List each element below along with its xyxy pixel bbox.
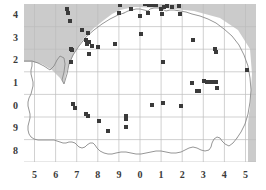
data-point-marker (154, 4, 158, 7)
data-point-marker (190, 81, 194, 85)
data-point-marker (106, 129, 110, 133)
x-tick-label: 5 (238, 170, 252, 180)
x-tick-label: 5 (28, 170, 42, 180)
data-point-marker (197, 89, 201, 93)
data-point-marker (160, 12, 164, 16)
data-point-marker (97, 119, 101, 123)
data-point-marker (177, 4, 181, 8)
data-point-marker (117, 11, 121, 15)
data-point-marker (113, 42, 117, 46)
data-point-marker (86, 114, 90, 118)
data-point-marker (118, 4, 122, 7)
data-point-marker (146, 11, 150, 15)
data-point-marker (245, 68, 249, 72)
data-point-marker (68, 19, 72, 23)
data-point-marker (86, 31, 90, 35)
data-point-marker (90, 44, 94, 48)
data-point-marker (80, 28, 84, 32)
y-tick-label: 1 (4, 78, 18, 88)
y-tick-label: 9 (4, 123, 18, 133)
data-point-marker (96, 45, 100, 49)
x-tick-label: 1 (154, 170, 168, 180)
y-tick-label: 2 (4, 55, 18, 65)
x-tick-label: 4 (217, 170, 231, 180)
x-tick-label: 0 (133, 170, 147, 180)
data-point-marker (87, 52, 91, 56)
data-point-marker (69, 60, 73, 64)
data-point-marker (161, 101, 165, 105)
data-point-marker (150, 103, 154, 107)
data-point-marker (179, 104, 183, 108)
y-tick-label: 4 (4, 10, 18, 20)
data-point-marker (215, 86, 219, 90)
x-tick-label: 9 (112, 170, 126, 180)
map-canvas (24, 4, 256, 162)
x-tick-label: 3 (196, 170, 210, 180)
data-point-marker (143, 4, 147, 6)
data-point-marker (70, 48, 74, 52)
distribution-map-figure: 56789012345 4321098 (0, 0, 266, 190)
y-tick-label: 3 (4, 33, 18, 43)
data-point-marker (214, 50, 218, 54)
data-point-marker (214, 80, 218, 84)
y-tick-label: 0 (4, 101, 18, 111)
data-point-marker (129, 7, 133, 11)
data-point-marker (124, 117, 128, 121)
x-tick-label: 2 (175, 170, 189, 180)
data-point-marker (139, 32, 143, 36)
data-point-marker (124, 125, 128, 129)
data-point-marker (138, 14, 142, 18)
data-point-marker (178, 12, 182, 16)
plot-area (24, 4, 256, 162)
data-point-marker (170, 5, 174, 9)
data-point-marker (73, 106, 77, 110)
data-point-marker (85, 42, 89, 46)
y-tick-label: 8 (4, 146, 18, 156)
x-tick-label: 8 (91, 170, 105, 180)
x-tick-label: 6 (49, 170, 63, 180)
data-point-marker (66, 11, 70, 15)
data-point-marker (191, 38, 195, 42)
data-point-marker (65, 7, 69, 11)
data-point-marker (161, 60, 165, 64)
x-tick-label: 7 (70, 170, 84, 180)
